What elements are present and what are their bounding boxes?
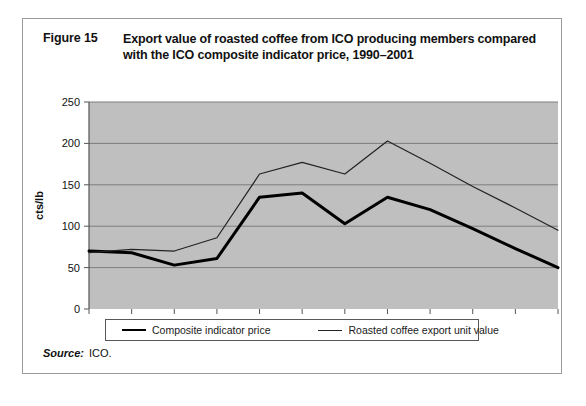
figure-title-line-1: Export value of roasted coffee from ICO … (123, 31, 543, 47)
y-axis-tick-label: 200 (62, 137, 80, 149)
figure-frame: Figure 15 Export value of roasted coffee… (22, 18, 562, 374)
x-axis-tick-label: 1995 (276, 315, 302, 317)
x-axis-tick-label: 1994 (233, 315, 259, 317)
y-axis-tick-label: 50 (68, 262, 80, 274)
y-axis-tick-label: 250 (62, 96, 80, 108)
y-axis-tick-label: 100 (62, 220, 80, 232)
x-axis-tick-label: 1990 (63, 315, 89, 317)
line-chart-svg: 050100150200250cts/lb1990199119921993199… (23, 77, 563, 317)
figure-title: Export value of roasted coffee from ICO … (123, 31, 543, 63)
legend-label: Roasted coffee export unit value (348, 324, 498, 336)
y-axis-tick-label: 0 (74, 303, 80, 315)
plot-background (89, 102, 558, 309)
x-axis-tick-label: 1998 (404, 315, 430, 317)
source-value: ICO. (89, 347, 112, 359)
x-axis-tick-label: 1999 (446, 315, 472, 317)
legend-entry-1: Composite indicator price (122, 324, 270, 336)
legend-line-swatch (318, 330, 342, 331)
x-axis-tick-label: 1997 (361, 315, 387, 317)
legend-entries: Composite indicator priceRoasted coffee … (106, 320, 478, 340)
x-axis-tick-label: 2000 (489, 315, 515, 317)
figure-header: Figure 15 Export value of roasted coffee… (23, 19, 561, 81)
figure-number: Figure 15 (43, 31, 98, 45)
x-axis-tick-label: 1992 (148, 315, 174, 317)
x-axis-tick-label: 1991 (105, 315, 131, 317)
x-axis-tick-label: 1993 (191, 315, 217, 317)
legend-label: Composite indicator price (152, 324, 270, 336)
y-axis-title: cts/lb (33, 191, 45, 220)
y-axis-tick-label: 150 (62, 179, 80, 191)
figure-title-line-2: with the ICO composite indicator price, … (123, 47, 543, 63)
chart-legend: Composite indicator priceRoasted coffee … (105, 319, 479, 341)
legend-entry-2: Roasted coffee export unit value (318, 324, 498, 336)
source-label: Source: (43, 347, 84, 359)
x-axis-tick-label: 1996 (318, 315, 344, 317)
source-note: Source:ICO. (43, 347, 112, 359)
legend-line-swatch (122, 329, 146, 331)
chart-plot-area: 050100150200250cts/lb1990199119921993199… (23, 77, 563, 317)
x-axis-tick-label: 2001 (532, 315, 558, 317)
